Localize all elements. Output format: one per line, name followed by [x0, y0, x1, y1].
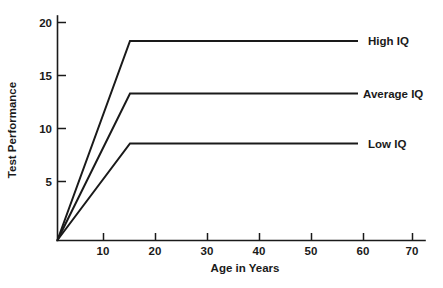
x-tick-label-40: 40 [253, 245, 266, 257]
series-line-high-iq [58, 41, 359, 240]
series-label-high-iq: High IQ [368, 35, 409, 47]
y-tick-label-5: 5 [46, 176, 53, 188]
y-axis-title: Test Performance [6, 82, 18, 178]
y-tick-label-10: 10 [39, 123, 52, 135]
x-tick-label-70: 70 [406, 245, 419, 257]
series-label-low-iq: Low IQ [368, 138, 406, 150]
line-chart: 20 15 10 5 10 20 30 40 50 60 70 High IQ … [0, 0, 443, 288]
chart-container: 20 15 10 5 10 20 30 40 50 60 70 High IQ … [0, 0, 443, 288]
x-tick-label-50: 50 [305, 245, 318, 257]
y-tick-label-15: 15 [39, 70, 52, 82]
series-line-low-iq [58, 144, 359, 241]
series-label-average-iq: Average IQ [363, 88, 423, 100]
x-tick-label-10: 10 [97, 245, 110, 257]
x-tick-label-60: 60 [357, 245, 370, 257]
y-tick-label-20: 20 [39, 17, 52, 29]
x-tick-label-20: 20 [149, 245, 162, 257]
x-axis-title: Age in Years [211, 262, 280, 274]
x-tick-label-30: 30 [201, 245, 214, 257]
